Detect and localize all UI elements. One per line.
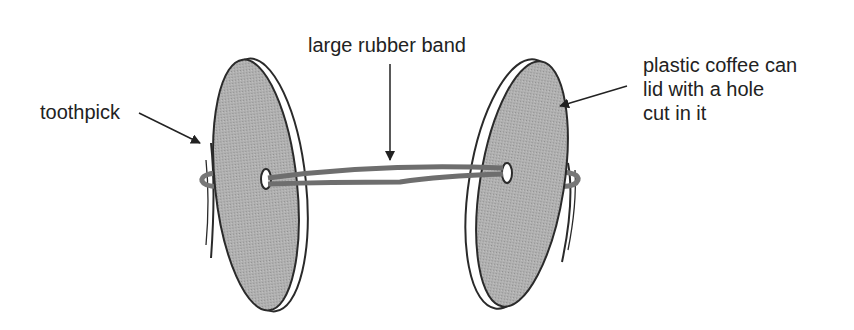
lid-arrow	[560, 86, 627, 106]
right-lid	[450, 52, 583, 315]
diagram-canvas: toothpick large rubber band plastic coff…	[0, 0, 854, 330]
toothpick-arrow	[139, 113, 200, 143]
lid-label-line1: plastic coffee can	[643, 54, 797, 76]
lid-label-line2: lid with a hole	[643, 78, 764, 100]
right-lid-hole	[502, 163, 512, 183]
rubber-band-label: large rubber band	[308, 34, 466, 56]
toothpick-label: toothpick	[40, 101, 120, 123]
lid-label-line3: cut in it	[643, 102, 706, 124]
